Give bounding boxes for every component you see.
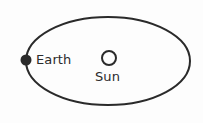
orbit-diagram-canvas — [0, 0, 203, 123]
sun-label: Sun — [95, 70, 120, 83]
earth-icon — [21, 55, 32, 66]
sun-icon — [102, 51, 116, 65]
orbit-diagram: Earth Sun — [0, 0, 203, 123]
earth-label: Earth — [36, 53, 71, 66]
